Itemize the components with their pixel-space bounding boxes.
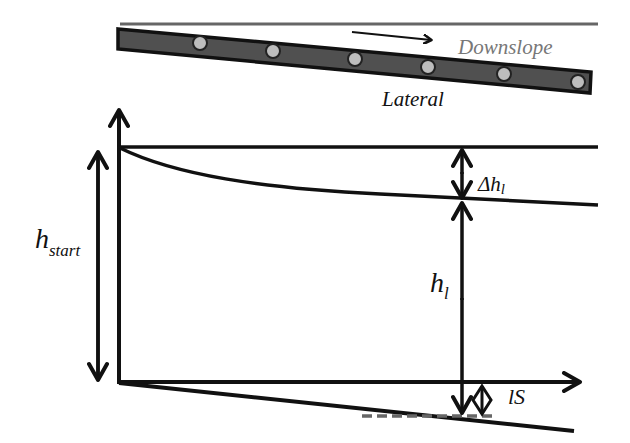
emitter-icon (497, 67, 511, 81)
pressure-head-curve (120, 148, 598, 205)
h-l-main: h (430, 267, 444, 298)
delta-h-sub: l (501, 181, 505, 197)
emitter-icon (421, 60, 435, 74)
delta-h-main: Δh (477, 172, 501, 196)
slope-drop-label: lS (508, 384, 525, 409)
axes (117, 110, 580, 384)
h-l-label: hl (430, 267, 449, 303)
delta-h-label: Δhl (477, 172, 505, 197)
slope-drop-dimension (473, 386, 491, 414)
emitter-icon (571, 75, 585, 89)
emitter-icon (266, 44, 280, 58)
head-profile-diagram: Downslope Lateral hstart Δhl hl (0, 0, 630, 443)
emitter-icon (193, 36, 207, 50)
head-lines (119, 147, 598, 431)
lateral-label: Lateral (381, 87, 444, 111)
downslope-label: Downslope (457, 35, 553, 59)
lateral-schematic: Downslope Lateral (118, 24, 598, 111)
emitter-icon (348, 52, 362, 66)
h-start-sub: start (49, 241, 81, 260)
h-start-label: hstart (35, 223, 81, 260)
h-l-sub: l (444, 284, 449, 303)
flow-direction-arrow-icon (352, 32, 431, 40)
h-start-main: h (35, 223, 49, 254)
ground-slope-line (119, 383, 574, 431)
